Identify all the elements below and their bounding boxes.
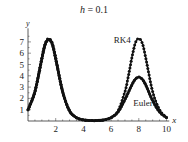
- data-point: [163, 114, 166, 117]
- data-point: [96, 119, 99, 122]
- data-point: [165, 116, 168, 119]
- data-point: [135, 77, 138, 80]
- data-point: [130, 84, 133, 87]
- axes: 2468101234567xy: [20, 19, 177, 134]
- y-tick-label: 2: [20, 93, 25, 103]
- data-point: [62, 94, 65, 97]
- data-point: [55, 63, 58, 66]
- data-point: [128, 66, 131, 69]
- data-point: [145, 84, 148, 87]
- annotation-rk4: RK4: [114, 35, 132, 45]
- data-point: [150, 87, 153, 90]
- data-point: [123, 93, 126, 96]
- data-point: [152, 93, 155, 96]
- data-point: [129, 63, 132, 66]
- data-point: [149, 80, 152, 83]
- data-point: [42, 48, 45, 51]
- data-point: [39, 63, 42, 66]
- data-point: [37, 72, 40, 75]
- data-point: [143, 82, 146, 85]
- data-point: [31, 97, 34, 100]
- data-point: [53, 54, 56, 57]
- data-point: [130, 57, 133, 60]
- data-point: [139, 38, 142, 41]
- data-point: [142, 47, 145, 50]
- data-point: [93, 119, 96, 122]
- data-point: [51, 42, 54, 45]
- data-point: [54, 57, 57, 60]
- data-point: [131, 53, 134, 56]
- data-point: [131, 81, 134, 84]
- data-point: [27, 108, 30, 111]
- data-point: [142, 79, 145, 82]
- data-point: [34, 89, 37, 92]
- data-point: [33, 92, 36, 95]
- data-point: [145, 60, 148, 63]
- data-point: [125, 95, 128, 98]
- data-point: [32, 95, 35, 98]
- data-point: [129, 87, 132, 90]
- data-point: [90, 119, 93, 122]
- data-point: [126, 92, 129, 95]
- data-point: [142, 44, 145, 47]
- data-point: [28, 105, 31, 108]
- data-point: [147, 90, 150, 93]
- y-tick-label: 4: [20, 71, 25, 81]
- data-point: [67, 108, 70, 111]
- data-point: [66, 105, 69, 108]
- data-point: [128, 89, 131, 92]
- data-point: [35, 83, 38, 86]
- data-point: [75, 116, 78, 119]
- data-point: [56, 65, 59, 68]
- data-point: [64, 100, 67, 103]
- data-point: [124, 89, 127, 92]
- data-point: [150, 83, 153, 86]
- data-point: [153, 103, 156, 106]
- data-point: [132, 47, 135, 50]
- y-tick-label: 1: [20, 105, 25, 115]
- data-point: [36, 80, 39, 83]
- data-point: [118, 108, 121, 111]
- data-point: [126, 80, 129, 83]
- data-point: [134, 40, 137, 43]
- x-tick-label: 10: [162, 124, 172, 134]
- data-point: [84, 119, 87, 122]
- data-point: [104, 118, 107, 121]
- data-point: [143, 51, 146, 54]
- data-point: [148, 74, 151, 77]
- data-point: [59, 80, 62, 83]
- plot-area: [27, 38, 169, 123]
- data-point: [125, 83, 128, 86]
- data-point: [73, 115, 76, 118]
- data-point: [147, 70, 150, 73]
- data-point: [128, 70, 131, 73]
- data-point: [120, 105, 123, 108]
- data-point: [40, 60, 43, 63]
- data-point: [41, 54, 44, 57]
- data-point: [148, 77, 151, 80]
- data-point: [122, 100, 125, 103]
- data-point: [61, 91, 64, 94]
- data-point: [130, 60, 133, 63]
- data-point: [43, 46, 46, 49]
- data-point: [58, 74, 61, 77]
- data-point: [60, 86, 63, 89]
- x-axis-label: x: [171, 115, 176, 125]
- x-tick-label: 8: [137, 124, 142, 134]
- data-point: [148, 93, 151, 96]
- data-point: [151, 90, 154, 93]
- data-point: [121, 103, 124, 106]
- data-point: [146, 67, 149, 70]
- data-point: [136, 38, 139, 41]
- data-point: [107, 117, 110, 120]
- data-point: [102, 119, 105, 122]
- data-point: [56, 68, 59, 71]
- data-point: [138, 75, 141, 78]
- data-point: [52, 48, 55, 51]
- data-point: [117, 110, 120, 113]
- data-point: [42, 51, 45, 54]
- data-point: [38, 69, 41, 72]
- series-euler: [27, 38, 169, 122]
- x-tick-label: 6: [109, 124, 114, 134]
- data-point: [144, 57, 147, 60]
